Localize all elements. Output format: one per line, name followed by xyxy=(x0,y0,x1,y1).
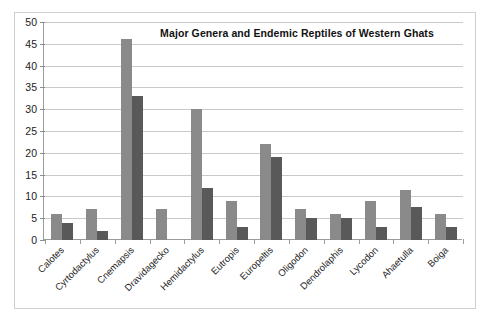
bar-series-container xyxy=(45,22,463,240)
category-label-slot: Dendrolaphis xyxy=(323,243,358,313)
bar-group xyxy=(45,22,80,240)
bar-group xyxy=(80,22,115,240)
bar-group xyxy=(393,22,428,240)
category-label-slot: Boiga xyxy=(427,243,462,313)
bar-group xyxy=(254,22,289,240)
y-axis-label: 45 xyxy=(25,39,37,50)
x-axis-tick xyxy=(463,239,464,244)
plot-area: 50454035302520151050 xyxy=(43,22,462,240)
y-axis-label: 5 xyxy=(31,213,37,224)
y-axis-label: 0 xyxy=(31,235,37,246)
bar-group xyxy=(324,22,359,240)
category-label-slot: Hemidactylus xyxy=(183,243,218,313)
bar xyxy=(86,209,97,240)
y-axis-label: 25 xyxy=(25,126,37,137)
y-axis-label: 40 xyxy=(25,60,37,71)
y-axis-label: 20 xyxy=(25,148,37,159)
y-axis-label: 35 xyxy=(25,82,37,93)
y-axis-label: 50 xyxy=(25,17,37,28)
category-label-slot: Ahaetulla xyxy=(392,243,427,313)
bar xyxy=(400,190,411,240)
bar-group xyxy=(289,22,324,240)
category-axis-labels: CalotesCyrtodactylusCnemapsisDravidageck… xyxy=(44,243,462,313)
bar-group xyxy=(428,22,463,240)
y-axis-label: 30 xyxy=(25,104,37,115)
y-axis-label: 10 xyxy=(25,191,37,202)
bar xyxy=(51,214,62,240)
category-label-text: Boiga xyxy=(425,245,449,269)
chart-page: Major Genera and Endemic Reptiles of Wes… xyxy=(0,0,490,322)
bar xyxy=(271,157,282,240)
y-axis-label: 15 xyxy=(25,169,37,180)
bar-group xyxy=(149,22,184,240)
